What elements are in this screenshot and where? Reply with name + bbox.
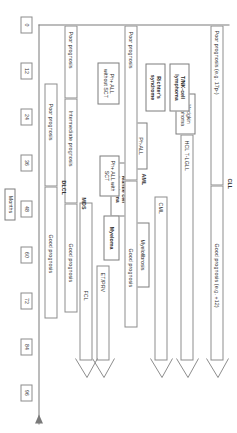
axis-tick-label: 96: [23, 390, 29, 396]
figure-viewport: 0 12 24 36 48 60 72 84 96 Months Poor pr…: [0, 0, 237, 433]
bar-et-prv-label: ET/PRV: [99, 272, 105, 292]
axis-tick-label: 24: [23, 114, 29, 120]
bar-hcl-continue-arrow-icon: [174, 357, 199, 379]
axis-tick-12: 12: [20, 62, 32, 79]
axis-unit-text: Months: [6, 194, 12, 213]
axis-unit-label: Months: [4, 188, 15, 220]
axis-tick-label: 48: [23, 206, 29, 212]
bar-fcl: [79, 202, 92, 360]
bar-fcl-continue-arrow-icon: [73, 357, 98, 379]
bar-cll-name: CLL: [226, 178, 232, 189]
time-axis-line: [38, 24, 39, 424]
survival-timeline-diagram: 0 12 24 36 48 60 72 84 96 Months Poor pr…: [0, 0, 237, 433]
bar-dlcl-poor-label: Poor prognosis: [47, 103, 53, 140]
box-richters-syndrome: Richter's syndrome: [145, 63, 165, 111]
bar-mds-intermediate-label: Intermediate prognosis: [67, 110, 73, 166]
bar-mds-good-label: Good prognosis: [67, 243, 73, 282]
axis-tick-label: 84: [23, 344, 29, 350]
axis-arrow-icon: [33, 414, 44, 426]
box-richters-syndrome-label: Richter's syndrome: [149, 64, 162, 110]
bar-aml-name: AML: [140, 173, 146, 185]
bar-aml-good-label: Good prognosis: [127, 248, 133, 287]
box-ph-plus-all-with-sct: Ph+ ALL with SCT: [99, 155, 119, 196]
axis-tick-24: 24: [20, 108, 32, 125]
box-myelofibrosis-label: Myelofibrosis: [138, 238, 144, 271]
axis-tick-60: 60: [20, 246, 32, 263]
bar-fcl-label: FCL: [82, 290, 88, 300]
bar-aml-poor-label: Poor prognosis: [127, 31, 133, 68]
box-ph-plus-all-without-sct: Ph+ ALL without SCT: [97, 62, 119, 104]
box-ph-plus-all-with-sct-label: Ph+ ALL with SCT: [103, 156, 116, 195]
bar-cml-label: CML: [157, 202, 163, 213]
bar-cll-good-label: Good prognosis (e.g. +12): [213, 243, 219, 307]
bar-cll-continue-arrow-icon: [204, 357, 229, 379]
bar-cml: [154, 196, 167, 360]
axis-tick-label: 36: [23, 160, 29, 166]
axis-tick-48: 48: [20, 200, 32, 217]
axis-tick-label: 72: [23, 298, 29, 304]
bar-mds-name: MDS: [80, 197, 86, 209]
axis-tick-84: 84: [20, 338, 32, 355]
axis-tick-36: 36: [20, 154, 32, 171]
box-myeloma: Myeloma: [103, 215, 119, 260]
bar-dlcl-good-label: Good prognosis: [47, 234, 53, 273]
axis-tick-0: 0: [20, 16, 32, 33]
bar-cll-poor-label: Poor prognosis (e.g. 17p-): [213, 30, 219, 94]
bar-cml-continue-arrow-icon: [148, 357, 173, 379]
axis-tick-label: 0: [23, 23, 29, 26]
axis-tick-96: 96: [20, 384, 32, 401]
axis-tick-label: 12: [23, 68, 29, 74]
bar-dlcl-name: DLCL: [60, 180, 66, 195]
axis-tick-label: 60: [23, 252, 29, 258]
box-myeloma-label: Myeloma: [108, 225, 114, 250]
box-tnk-cell-lymphoma-label: T/NK-cell lymphoma: [173, 64, 186, 110]
bar-hcl-tlgll-label: HCL T-LGLL: [183, 140, 189, 170]
box-tnk-cell-lymphoma: T/NK-cell lymphoma: [169, 63, 189, 111]
box-ph-plus-all-without-sct-label: Ph+ ALL without SCT: [102, 63, 115, 103]
axis-tick-72: 72: [20, 292, 32, 309]
bar-mds-poor-label: Poor prognosis: [67, 31, 73, 68]
